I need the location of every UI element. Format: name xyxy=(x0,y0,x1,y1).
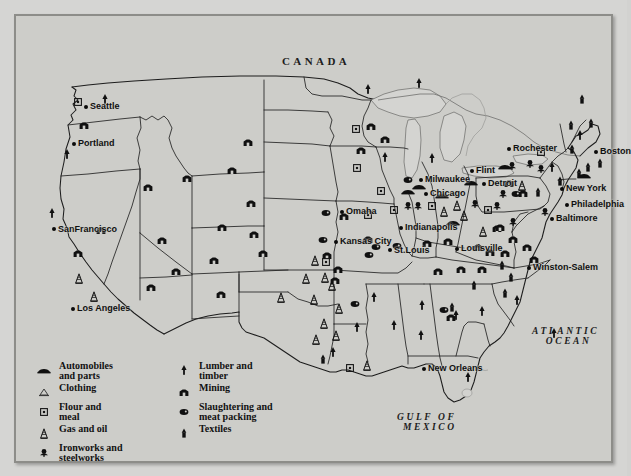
atlantic-line-1: ATLANTIC xyxy=(532,326,599,336)
legend-label-line-2: and parts xyxy=(59,371,113,381)
city-label-new-orleans: New Orleans xyxy=(428,364,483,374)
city-label-portland: Portland xyxy=(78,139,115,149)
city-label-rochester: Rochester xyxy=(513,144,557,154)
legend-label-flour-and-meal: Flour andmeal xyxy=(59,402,101,422)
city-label-baltimore: Baltimore xyxy=(556,214,598,224)
city-dot-louisville xyxy=(455,247,459,251)
map-plate: CANADA ATLANTIC OCEAN GULF OF MEXICO Sea… xyxy=(14,14,613,463)
city-label-winston-salem: Winston-Salem xyxy=(533,263,598,273)
city-label-boston: Boston xyxy=(600,147,631,157)
city-label-chicago: Chicago xyxy=(430,189,466,199)
city-dot-milwaukee xyxy=(419,178,423,182)
legend-label-textiles: Textiles xyxy=(199,424,231,434)
city-dot-boston xyxy=(594,150,598,154)
city-label-san-francisco: SanFrancisco xyxy=(58,225,117,235)
legend-label-clothing: Clothing xyxy=(59,383,96,393)
legend-label-mining: Mining xyxy=(199,383,230,393)
city-label-milwaukee: Milwaukee xyxy=(425,175,470,185)
city-dot-st-louis xyxy=(388,248,392,252)
legend-label-line-1: Textiles xyxy=(199,424,231,434)
legend-label-ironworks-and-steelworks: Ironworks andsteelworks xyxy=(59,443,122,463)
automobile-icon xyxy=(34,362,54,379)
lumber-icon xyxy=(174,362,194,379)
city-dot-san-francisco xyxy=(52,227,56,231)
mining-icon xyxy=(174,384,194,401)
city-dot-new-york xyxy=(560,187,564,191)
legend-label-line-2: meat packing xyxy=(199,412,273,422)
legend-label-lumber-and-timber: Lumber andtimber xyxy=(199,361,252,381)
legend-label-automobiles-and-parts: Automobilesand parts xyxy=(59,361,113,381)
legend-label-slaughtering-and-meat-packing: Slaughtering andmeat packing xyxy=(199,402,273,422)
city-dot-flint xyxy=(470,169,474,173)
flour-icon xyxy=(34,403,54,420)
city-label-philadelphia: Philadelphia xyxy=(571,200,624,210)
meat-icon xyxy=(174,403,194,420)
city-label-louisville: Louisville xyxy=(461,244,503,254)
city-dot-philadelphia xyxy=(565,203,569,207)
region-label-gulf-of-mexico: GULF OF MEXICO xyxy=(397,412,457,432)
city-label-flint: Flint xyxy=(476,166,495,176)
city-dot-new-orleans xyxy=(422,367,426,371)
city-label-kansas-city: Kansas City xyxy=(340,237,392,247)
region-label-atlantic-ocean: ATLANTIC OCEAN xyxy=(532,326,599,346)
atlantic-line-2: OCEAN xyxy=(538,336,599,346)
region-label-canada: CANADA xyxy=(282,55,350,67)
city-label-detroit: Detroit xyxy=(488,179,517,189)
city-dot-los-angeles xyxy=(71,307,75,311)
city-dot-detroit xyxy=(482,182,486,186)
city-dot-kansas-city xyxy=(334,240,338,244)
gulf-line-1: GULF OF xyxy=(397,412,457,422)
legend-label-gas-and-oil: Gas and oil xyxy=(59,424,107,434)
clothing-icon xyxy=(34,384,54,401)
legend-label-line-1: Gas and oil xyxy=(59,424,107,434)
legend-label-line-1: Mining xyxy=(199,383,230,393)
textile-icon xyxy=(174,425,194,442)
city-dot-baltimore xyxy=(550,217,554,221)
city-dot-indianapolis xyxy=(399,226,403,230)
city-label-st-louis: St.Louis xyxy=(394,246,430,256)
map-legend: Automobilesand partsClothingFlour andmea… xyxy=(34,362,294,458)
city-dot-rochester xyxy=(507,147,511,151)
city-label-seattle: Seattle xyxy=(90,102,120,112)
gulf-line-2: MEXICO xyxy=(403,422,457,432)
legend-label-line-2: steelworks xyxy=(59,453,122,463)
city-dot-portland xyxy=(72,142,76,146)
legend-label-line-1: Clothing xyxy=(59,383,96,393)
oil-derrick-icon xyxy=(34,425,54,442)
legend-label-line-2: meal xyxy=(59,412,101,422)
city-label-indianapolis: Indianapolis xyxy=(405,223,458,233)
city-label-new-york: New York xyxy=(566,184,606,194)
city-dot-winston-salem xyxy=(527,266,531,270)
city-label-los-angeles: Los Angeles xyxy=(77,304,130,314)
legend-label-line-2: timber xyxy=(199,371,252,381)
city-dot-seattle xyxy=(84,105,88,109)
city-dot-chicago xyxy=(424,192,428,196)
city-dot-omaha xyxy=(340,210,344,214)
ironworks-icon xyxy=(34,444,54,461)
city-label-omaha: Omaha xyxy=(346,207,377,217)
